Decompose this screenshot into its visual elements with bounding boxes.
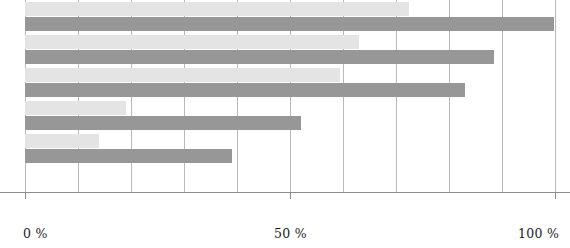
bar-chart: 0 %50 %100 % — [0, 0, 570, 248]
bar-series-light-2 — [25, 35, 359, 49]
bar-series-dark-3 — [25, 83, 465, 97]
plot-area — [25, 0, 555, 192]
x-axis-line — [0, 192, 570, 193]
tick-label-0: 0 % — [23, 226, 48, 241]
bar-series-dark-5 — [25, 149, 232, 163]
bar-series-light-5 — [25, 134, 99, 148]
tick-mark-50 — [290, 192, 291, 199]
tick-label-50: 50 % — [274, 226, 307, 241]
bar-series-light-3 — [25, 68, 340, 82]
tick-label-100: 100 % — [518, 226, 559, 241]
bar-series-dark-1 — [25, 17, 554, 31]
bar-series-light-1 — [25, 2, 409, 16]
bar-series-light-4 — [25, 101, 126, 115]
bar-series-dark-4 — [25, 116, 301, 130]
tick-mark-100 — [555, 192, 556, 199]
bar-series-dark-2 — [25, 50, 494, 64]
gridline-100 — [555, 0, 556, 192]
tick-mark-0 — [25, 192, 26, 199]
